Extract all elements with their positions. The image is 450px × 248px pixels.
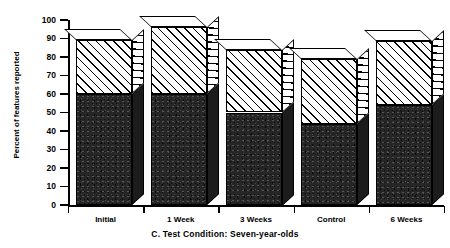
x-axis-label-6-weeks: 6 Weeks [369, 215, 444, 224]
bar-top-face [64, 29, 132, 40]
x-tick [369, 206, 370, 213]
x-tick [68, 206, 69, 213]
y-tick-label: 70 [16, 71, 56, 79]
bar-segment-upper [76, 40, 132, 94]
y-tick-label: 100 [16, 16, 56, 24]
x-tick [444, 206, 445, 213]
y-tick-label: 20 [16, 164, 56, 172]
x-axis-label-initial: Initial [68, 215, 143, 224]
y-tick-label: 90 [16, 34, 56, 42]
y-tick-label: 80 [16, 53, 56, 61]
x-axis-line [68, 205, 444, 207]
y-tick [60, 167, 68, 168]
bar-segment-lower [301, 124, 357, 205]
bar-segment-lower [376, 105, 432, 205]
bar-top-face [139, 16, 207, 27]
bar-side-dark [432, 94, 444, 205]
y-tick [60, 19, 68, 20]
y-tick-label: 0 [16, 201, 56, 209]
bar-top-face [289, 48, 357, 59]
bar-top-face [214, 39, 282, 50]
x-tick [294, 206, 295, 213]
y-tick [60, 186, 68, 187]
bar-side-dark [282, 102, 294, 206]
figure-panel: Percent of features reported 10090807060… [0, 0, 450, 248]
x-tick [218, 206, 219, 213]
y-tick-label: 10 [16, 182, 56, 190]
bar-side-dark [207, 83, 219, 205]
figure-caption: C. Test Condition: Seven-year-olds [0, 229, 450, 239]
y-tick [60, 56, 68, 57]
bar-side-hatched [207, 16, 219, 94]
y-tick [60, 130, 68, 131]
y-axis-line [68, 20, 70, 206]
y-tick-label: 30 [16, 145, 56, 153]
bar-segment-lower [76, 94, 132, 205]
bar-side-dark [357, 113, 369, 205]
y-tick [60, 38, 68, 39]
bar-segment-upper [301, 59, 357, 124]
y-tick-label: 40 [16, 127, 56, 135]
y-tick [60, 204, 68, 205]
y-tick [60, 149, 68, 150]
bar-segment-upper [226, 50, 282, 113]
bar-side-hatched [132, 29, 144, 94]
y-tick-label: 60 [16, 90, 56, 98]
x-tick [143, 206, 144, 213]
bar-side-hatched [432, 30, 444, 105]
x-axis-label-3-weeks: 3 Weeks [218, 215, 293, 224]
bar-side-dark [132, 83, 144, 205]
bar-segment-lower [151, 94, 207, 205]
bar-segment-upper [376, 41, 432, 105]
y-tick [60, 75, 68, 76]
y-tick [60, 112, 68, 113]
y-tick-label: 50 [16, 108, 56, 116]
bar-side-hatched [357, 48, 369, 124]
bar-segment-lower [226, 113, 282, 206]
x-axis-label-control: Control [294, 215, 369, 224]
plot-area: 1009080706050403020100 Initial1 Week3 We… [0, 0, 450, 248]
bar-segment-upper [151, 27, 207, 94]
x-axis-label-1-week: 1 Week [143, 215, 218, 224]
bar-top-face [364, 30, 432, 41]
y-tick [60, 93, 68, 94]
